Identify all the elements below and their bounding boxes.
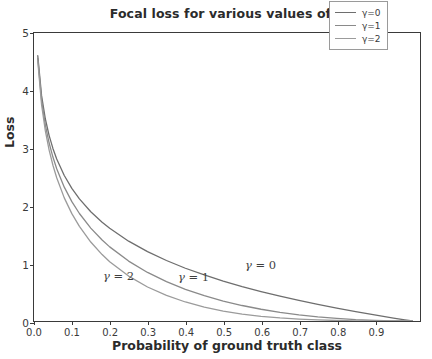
x-tick-label: 0.9: [368, 327, 384, 338]
y-axis-label: Loss: [2, 117, 17, 148]
y-tick-mark: [30, 265, 34, 266]
x-tick-mark: [338, 321, 339, 325]
plot-area: 0123450.00.10.20.30.40.50.60.70.80.9: [33, 32, 421, 322]
x-tick-label: 0.0: [26, 327, 42, 338]
annotation-value: 2: [127, 269, 134, 283]
annotation-variable: γ: [178, 270, 185, 284]
x-tick-mark: [376, 321, 377, 325]
y-tick-label: 4: [22, 85, 29, 97]
legend-label: γ=2: [362, 34, 381, 44]
y-tick-mark: [30, 33, 34, 34]
y-tick-mark: [30, 91, 34, 92]
annotation-equals: =: [252, 258, 269, 272]
x-tick-label: 0.7: [292, 327, 308, 338]
x-tick-mark: [34, 321, 35, 325]
legend-line-swatch: [335, 38, 356, 39]
annotation-equals: =: [185, 270, 202, 284]
legend-item-0[interactable]: γ=0: [335, 6, 381, 19]
curve-gg0: [38, 56, 413, 321]
x-tick-mark: [224, 321, 225, 325]
x-tick-mark: [262, 321, 263, 325]
legend-item-2[interactable]: γ=2: [335, 32, 381, 45]
x-tick-mark: [72, 321, 73, 325]
x-tick-label: 0.6: [254, 327, 270, 338]
annotation-gamma-1: γ = 1: [178, 270, 209, 284]
y-tick-mark: [30, 149, 34, 150]
x-tick-label: 0.2: [102, 327, 118, 338]
legend-item-1[interactable]: γ=1: [335, 19, 381, 32]
curves-svg: [34, 33, 420, 321]
y-tick-label: 1: [22, 259, 29, 271]
x-tick-label: 0.5: [216, 327, 232, 338]
x-tick-label: 0.8: [330, 327, 346, 338]
legend-line-swatch: [335, 12, 356, 13]
y-tick-label: 3: [22, 143, 29, 155]
legend-label: γ=1: [362, 21, 381, 31]
annotation-variable: γ: [245, 258, 252, 272]
y-tick-mark: [30, 207, 34, 208]
x-tick-label: 0.1: [64, 327, 80, 338]
chart-figure: Focal loss for various values of γ 01234…: [0, 0, 432, 359]
legend-label: γ=0: [362, 8, 381, 18]
y-tick-label: 2: [22, 201, 29, 213]
x-axis-label: Probability of ground truth class: [33, 338, 421, 353]
x-tick-mark: [300, 321, 301, 325]
x-tick-mark: [148, 321, 149, 325]
annotation-value: 1: [202, 270, 209, 284]
x-tick-mark: [110, 321, 111, 325]
annotation-gamma-0: γ = 0: [245, 258, 276, 272]
y-tick-label: 5: [22, 27, 29, 39]
annotation-value: 0: [269, 258, 276, 272]
annotation-equals: =: [110, 269, 127, 283]
x-tick-mark: [186, 321, 187, 325]
legend-line-swatch: [335, 25, 356, 26]
annotation-variable: γ: [103, 269, 110, 283]
legend: γ=0γ=1γ=2: [329, 1, 388, 50]
x-tick-label: 0.4: [178, 327, 194, 338]
x-tick-label: 0.3: [140, 327, 156, 338]
annotation-gamma-2: γ = 2: [103, 269, 134, 283]
